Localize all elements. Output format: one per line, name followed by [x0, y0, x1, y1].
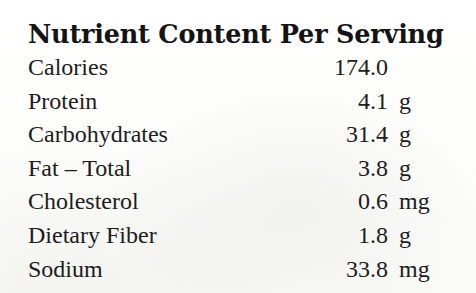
- table-row: Sodium 33.8 mg: [28, 253, 447, 287]
- nutrient-label: Dietary Fiber: [28, 219, 276, 253]
- nutrient-unit: g: [399, 85, 447, 119]
- nutrient-label: Cholesterol: [28, 185, 276, 219]
- table-row: Protein 4.1 g: [28, 85, 447, 119]
- table-row: Dietary Fiber 1.8 g: [28, 219, 447, 253]
- nutrient-unit: mg: [399, 185, 447, 219]
- nutrient-label: Calories: [28, 51, 276, 85]
- nutrient-table-body: Calories 174.0 Protein 4.1 g Carbohydrat…: [28, 51, 447, 286]
- nutrient-value: 31.4: [276, 118, 399, 152]
- nutrient-value: 3.8: [276, 152, 399, 186]
- nutrition-label-panel: Nutrient Content Per Serving Calories 17…: [0, 0, 476, 293]
- table-row: Fat – Total 3.8 g: [28, 152, 447, 186]
- nutrient-unit: g: [399, 118, 447, 152]
- nutrient-unit: [399, 51, 447, 85]
- nutrient-unit: mg: [399, 253, 447, 287]
- nutrient-label: Fat – Total: [28, 152, 276, 186]
- table-row: Calories 174.0: [28, 51, 447, 85]
- table-row: Cholesterol 0.6 mg: [28, 185, 447, 219]
- nutrient-unit: g: [399, 152, 447, 186]
- nutrient-value: 174.0: [276, 51, 399, 85]
- nutrient-value: 1.8: [276, 219, 399, 253]
- nutrient-value: 0.6: [276, 185, 399, 219]
- panel-content: Nutrient Content Per Serving Calories 17…: [0, 0, 476, 286]
- nutrient-value: 33.8: [276, 253, 399, 287]
- nutrient-label: Protein: [28, 85, 276, 119]
- nutrient-unit: g: [399, 219, 447, 253]
- nutrient-label: Carbohydrates: [28, 118, 276, 152]
- panel-title: Nutrient Content Per Serving: [28, 19, 476, 49]
- nutrient-table: Calories 174.0 Protein 4.1 g Carbohydrat…: [28, 51, 447, 286]
- nutrient-label: Sodium: [28, 253, 276, 287]
- nutrient-value: 4.1: [276, 85, 399, 119]
- table-row: Carbohydrates 31.4 g: [28, 118, 447, 152]
